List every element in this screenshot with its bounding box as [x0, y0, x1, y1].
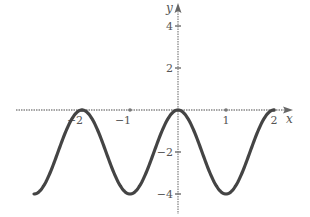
axes [16, 3, 293, 214]
y-tick-label: 2 [166, 62, 173, 75]
y-tick-label: −2 [157, 146, 173, 159]
x-tick-mark [128, 108, 132, 112]
x-tick-mark [224, 108, 228, 112]
x-tick-label: −1 [115, 114, 131, 127]
function-graph: −2−11242−2−4 x y [0, 0, 310, 217]
y-tick-label: −4 [157, 188, 173, 201]
cosine-curve [34, 110, 274, 194]
y-tick-label: 4 [166, 20, 173, 33]
x-axis-label: x [286, 112, 293, 126]
x-tick-label: 1 [223, 114, 230, 127]
y-axis-label: y [165, 1, 173, 15]
x-tick-label: 2 [271, 114, 278, 127]
